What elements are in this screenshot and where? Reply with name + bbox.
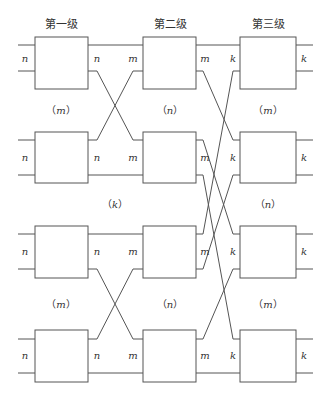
svg-text:（m）: （m） bbox=[253, 299, 282, 310]
stage2-module-2 bbox=[143, 132, 196, 183]
stage3-title: 第三级 bbox=[252, 17, 285, 31]
svg-text:（m）: （m） bbox=[46, 299, 75, 310]
svg-text:m: m bbox=[200, 350, 209, 361]
svg-text:（m）: （m） bbox=[46, 105, 75, 116]
links-stage2-stage3 bbox=[196, 45, 240, 373]
svg-text:n: n bbox=[22, 246, 28, 257]
svg-text:k: k bbox=[301, 152, 307, 163]
svg-text:（n）: （n） bbox=[157, 105, 183, 116]
svg-text:n: n bbox=[94, 152, 100, 163]
svg-text:m: m bbox=[200, 246, 209, 257]
stage2-module-1 bbox=[143, 37, 196, 89]
stage1-module-3 bbox=[35, 226, 88, 278]
stage2-module-3 bbox=[143, 226, 196, 278]
svg-text:n: n bbox=[94, 53, 100, 64]
svg-text:k: k bbox=[230, 350, 236, 361]
stage1-module-1 bbox=[35, 37, 88, 89]
svg-text:k: k bbox=[301, 246, 307, 257]
svg-text:m: m bbox=[128, 246, 137, 257]
svg-text:k: k bbox=[301, 53, 307, 64]
svg-text:（n）: （n） bbox=[255, 199, 281, 210]
stage3-module-3 bbox=[240, 226, 296, 278]
svg-text:k: k bbox=[230, 53, 236, 64]
stage3-module-4 bbox=[240, 330, 296, 382]
svg-text:m: m bbox=[200, 53, 209, 64]
svg-text:n: n bbox=[22, 53, 28, 64]
three-stage-switch-diagram: 第一级 第二级 第三级 n n m m k k n n m m k k n n … bbox=[0, 0, 326, 399]
svg-text:n: n bbox=[22, 152, 28, 163]
module-counts: （m） （n） （m） （k） （n） （m） （n） （m） bbox=[46, 105, 282, 310]
svg-text:k: k bbox=[230, 246, 236, 257]
svg-text:m: m bbox=[128, 53, 137, 64]
output-lines bbox=[296, 45, 313, 373]
svg-text:m: m bbox=[128, 152, 137, 163]
svg-text:k: k bbox=[301, 350, 307, 361]
svg-text:（k）: （k） bbox=[102, 199, 128, 210]
svg-text:n: n bbox=[22, 350, 28, 361]
svg-text:n: n bbox=[94, 350, 100, 361]
input-lines bbox=[18, 45, 35, 373]
stage2-title: 第二级 bbox=[154, 17, 187, 31]
stage3-module-1 bbox=[240, 37, 296, 89]
svg-text:k: k bbox=[230, 152, 236, 163]
stage1-module-4 bbox=[35, 330, 88, 382]
stage1-title: 第一级 bbox=[45, 17, 78, 31]
svg-text:n: n bbox=[94, 246, 100, 257]
stage2-module-4 bbox=[143, 330, 196, 382]
svg-text:（n）: （n） bbox=[157, 299, 183, 310]
svg-text:m: m bbox=[128, 350, 137, 361]
svg-text:m: m bbox=[200, 152, 209, 163]
stage3-module-2 bbox=[240, 132, 296, 183]
svg-text:（m）: （m） bbox=[253, 105, 282, 116]
stage1-module-2 bbox=[35, 132, 88, 183]
